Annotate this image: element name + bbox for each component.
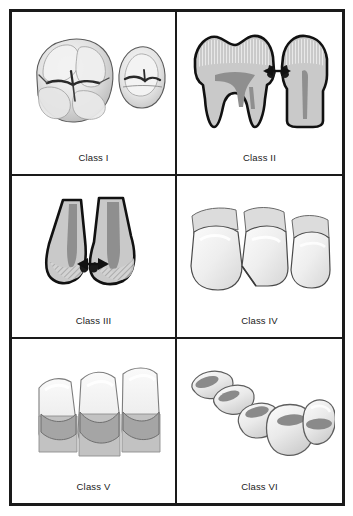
cell-label-class-5: Class V [77, 481, 111, 503]
cell-label-class-2: Class II [243, 152, 276, 174]
anterior-pair-cross-section-icon [19, 186, 169, 306]
illustration-class-4 [177, 176, 342, 316]
cell-class-4: Class IV [177, 176, 342, 340]
illustration-class-6 [177, 339, 342, 481]
cell-class-1: Class I [12, 12, 177, 176]
cell-label-class-4: Class IV [241, 315, 278, 337]
cell-class-5: Class V [12, 339, 177, 503]
molar-occlusal-pair-icon [19, 23, 169, 143]
illustration-class-5 [12, 339, 175, 481]
cell-class-6: Class VI [177, 339, 342, 503]
plate-frame: Class I [9, 9, 345, 506]
cell-class-2: Class II [177, 12, 342, 176]
figure-root: Class I [0, 0, 353, 516]
cell-label-class-3: Class III [76, 315, 112, 337]
cell-label-class-6: Class VI [241, 481, 278, 503]
cell-class-3: Class III [12, 176, 177, 340]
anterior-incisal-fracture-icon [184, 186, 336, 306]
molar-premolar-cross-section-icon [185, 23, 335, 143]
illustration-class-3 [12, 176, 175, 316]
illustration-class-1 [12, 12, 175, 152]
illustration-class-2 [177, 12, 342, 152]
cervical-lesion-trio-icon [19, 352, 169, 470]
classification-grid: Class I [12, 12, 342, 503]
incisal-cusp-tip-arch-icon [185, 352, 335, 470]
cell-label-class-1: Class I [78, 152, 108, 174]
